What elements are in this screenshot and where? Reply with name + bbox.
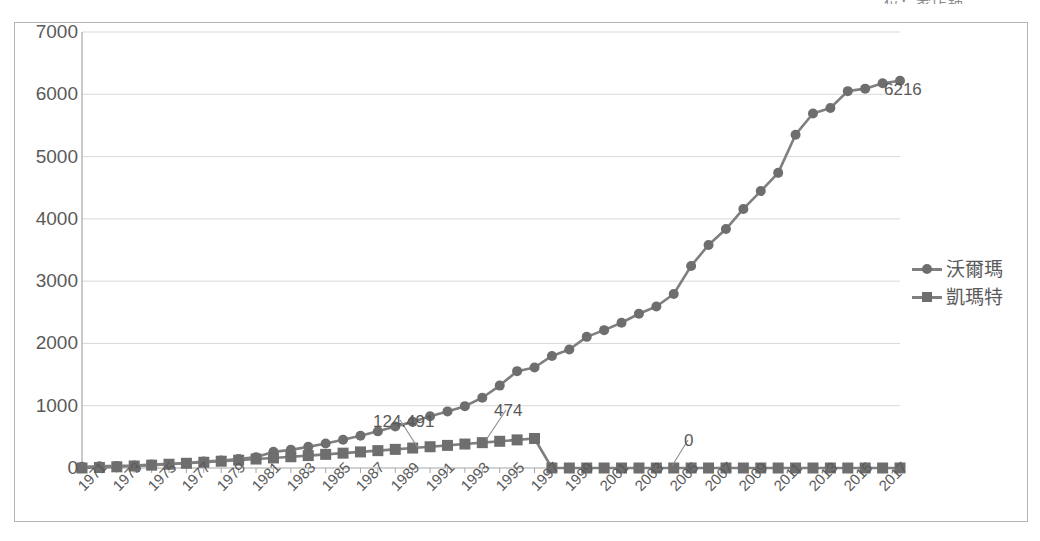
x-axis-tick-1979: 1979 [213, 458, 249, 494]
x-axis-tick-2015: 2015 [840, 458, 876, 494]
kmart-peak-label: 474 [494, 401, 522, 421]
legend-item-walmart[interactable]: 沃爾瑪 [912, 255, 1020, 283]
x-axis-tick-2007: 2007 [701, 458, 737, 494]
x-axis-tick-1993: 1993 [457, 458, 493, 494]
walmart-final-label: 6216 [884, 80, 922, 100]
x-axis-tick-1991: 1991 [422, 458, 458, 494]
legend-label-walmart: 沃爾瑪 [946, 260, 1003, 279]
x-axis-tick-2017: 2017 [875, 458, 911, 494]
legend-label-kmart: 凱瑪特 [946, 288, 1003, 307]
x-axis-tick-1975: 1975 [144, 458, 180, 494]
x-axis-tick-1997: 1997 [527, 458, 563, 494]
x-axis-tick-1983: 1983 [283, 458, 319, 494]
kmart-1991-label: 124.491 [373, 412, 434, 432]
x-axis-tick-1977: 1977 [178, 458, 214, 494]
x-axis-tick-1973: 1973 [109, 458, 145, 494]
x-axis-tick-1995: 1995 [492, 458, 528, 494]
chart-legend: 沃爾瑪 凱瑪特 [912, 255, 1020, 311]
x-axis-tick-1989: 1989 [387, 458, 423, 494]
x-axis-tick-1985: 1985 [318, 458, 354, 494]
legend-item-kmart[interactable]: 凱瑪特 [912, 283, 1020, 311]
x-axis-tick-2001: 2001 [596, 458, 632, 494]
x-axis-tick-1999: 1999 [561, 458, 597, 494]
x-axis-tick-2011: 2011 [770, 459, 805, 494]
kmart-zero-label: 0 [684, 431, 693, 451]
x-axis-tick-1981: 1981 [248, 458, 284, 494]
x-axis-tick-1971: 1971 [74, 458, 110, 494]
x-axis-tick-1987: 1987 [352, 458, 388, 494]
square-marker-icon [912, 290, 942, 304]
x-axis-tick-2003: 2003 [631, 458, 667, 494]
circle-marker-icon [912, 262, 942, 276]
x-axis-tick-2005: 2005 [666, 458, 702, 494]
x-axis-tick-2009: 2009 [735, 458, 771, 494]
x-axis-tick-2013: 2013 [805, 458, 841, 494]
